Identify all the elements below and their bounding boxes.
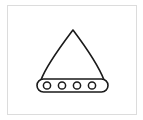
image-canvas <box>0 0 143 120</box>
base-circle-3 <box>73 82 80 89</box>
base-circle-2 <box>58 82 65 89</box>
line-art-drawing <box>0 0 143 120</box>
base-circle-4 <box>88 82 95 89</box>
curved-triangle-body <box>41 30 104 80</box>
base-circle-1 <box>43 82 50 89</box>
